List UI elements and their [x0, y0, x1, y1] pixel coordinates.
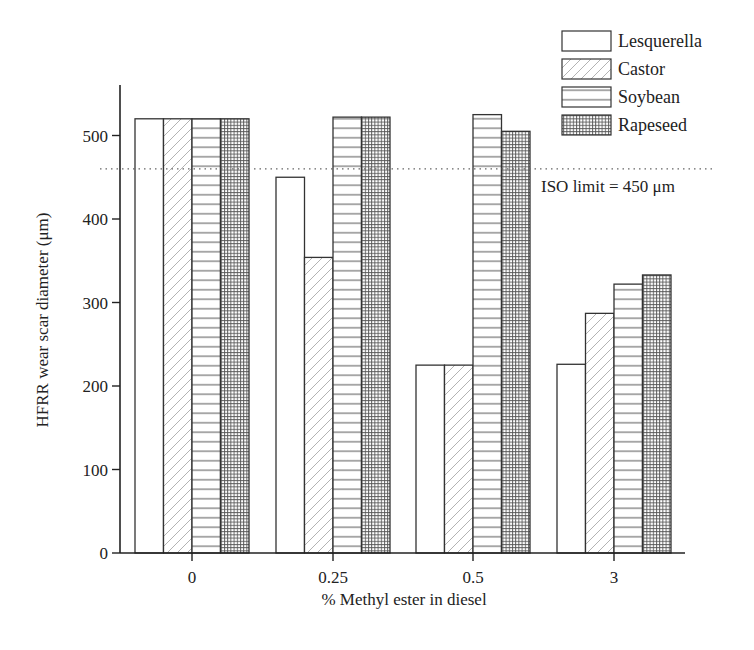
bar-lesquerella-0.25 [276, 177, 305, 553]
x-tick-label: 0 [188, 568, 197, 587]
x-tick-label: 0.5 [462, 568, 483, 587]
bar-castor-0.5 [445, 365, 474, 553]
legend-label-soybean: Soybean [618, 87, 680, 107]
bar-lesquerella-3 [557, 364, 586, 553]
legend-label-castor: Castor [618, 59, 665, 79]
bar-lesquerella-0.5 [416, 365, 445, 553]
x-tick-label: 0.25 [318, 568, 348, 587]
legend-swatch-lesquerella [562, 31, 611, 51]
legend-swatch-soybean [562, 87, 611, 107]
bar-castor-0.25 [305, 257, 334, 553]
bar-rapeseed-3 [643, 275, 672, 553]
bar-castor-0 [164, 119, 193, 553]
bar-soybean-0 [192, 119, 221, 553]
y-tick-label: 400 [83, 210, 109, 229]
bar-lesquerella-0 [135, 119, 164, 553]
bar-rapeseed-0.25 [362, 117, 391, 553]
y-tick-label: 100 [83, 461, 109, 480]
legend-swatch-rapeseed [562, 115, 611, 135]
bar-soybean-0.5 [473, 115, 502, 553]
legend: LesquerellaCastorSoybeanRapeseed [562, 31, 702, 135]
x-tick-label: 3 [610, 568, 619, 587]
bar-castor-3 [586, 313, 615, 553]
bar-soybean-0.25 [333, 117, 362, 553]
y-axis-label: HFRR wear scar diameter (μm) [33, 213, 52, 428]
bar-soybean-3 [614, 284, 643, 553]
bar-rapeseed-0 [221, 119, 250, 553]
x-axis-label: % Methyl ester in diesel [321, 590, 487, 609]
y-tick-label: 300 [83, 294, 109, 313]
y-tick-label: 500 [83, 127, 109, 146]
legend-label-lesquerella: Lesquerella [618, 31, 702, 51]
bar-chart: ISO limit = 450 μm 010020030040050000.25… [0, 0, 754, 650]
legend-swatch-castor [562, 59, 611, 79]
iso-limit-label: ISO limit = 450 μm [541, 177, 675, 196]
bar-rapeseed-0.5 [502, 131, 531, 553]
y-tick-label: 200 [83, 377, 109, 396]
legend-label-rapeseed: Rapeseed [618, 115, 687, 135]
y-tick-label: 0 [100, 544, 109, 563]
